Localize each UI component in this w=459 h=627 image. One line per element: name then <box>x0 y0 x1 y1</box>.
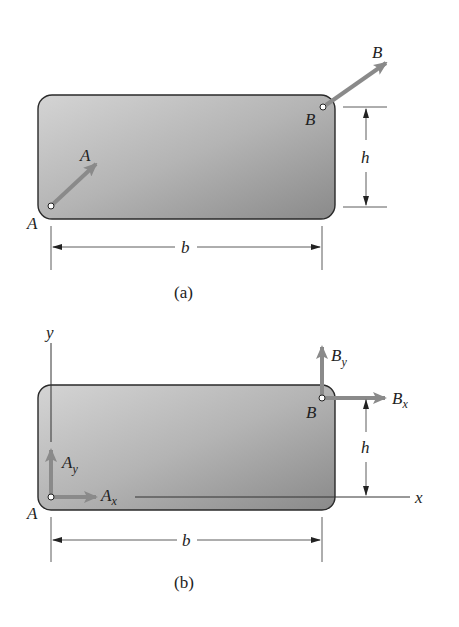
width-label-b: b <box>182 531 191 550</box>
pin-a-b <box>48 494 54 500</box>
part-a: A A B B h b (a) <box>26 43 387 302</box>
y-axis-label: y <box>44 323 54 342</box>
force-b-arrow-icon <box>326 63 386 105</box>
plate-b <box>38 385 335 510</box>
pin-b <box>320 104 326 110</box>
point-a-label: A <box>26 214 38 233</box>
point-a-label-b: A <box>26 504 38 523</box>
part-b: y x Ay Ax A By Bx B h b <box>26 323 423 592</box>
height-label-b: h <box>361 438 370 457</box>
pin-b-b <box>319 395 325 401</box>
width-label-a: b <box>181 238 190 257</box>
point-b-label-b: B <box>306 403 317 422</box>
force-b-label: B <box>372 43 383 62</box>
pin-a <box>48 203 54 209</box>
by-label: By <box>331 346 347 369</box>
point-b-label: B <box>305 110 316 129</box>
caption-a: (a) <box>174 283 193 302</box>
force-a-label: A <box>79 146 91 165</box>
height-label-a: h <box>361 148 370 167</box>
x-axis-label: x <box>414 488 423 507</box>
bx-label: Bx <box>392 389 408 411</box>
two-force-plate-diagram: A A B B h b (a) y x Ay <box>0 0 459 627</box>
caption-b: (b) <box>174 573 194 592</box>
